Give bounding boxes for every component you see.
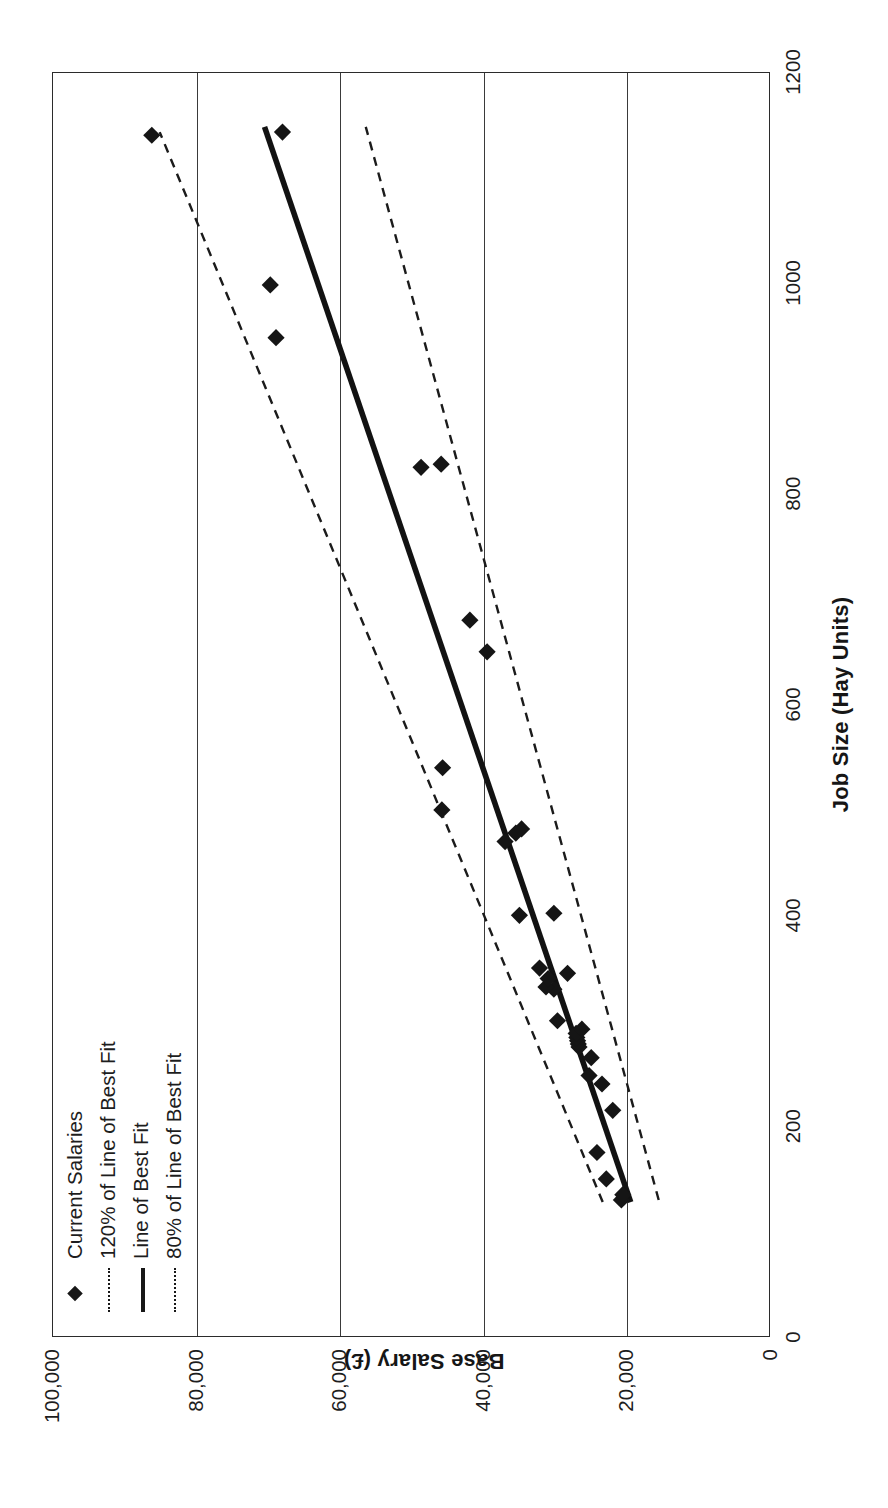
- data-point-marker: [559, 965, 576, 982]
- data-point-marker: [267, 329, 284, 346]
- legend-label: 120% of Line of Best Fit: [98, 1041, 119, 1259]
- dashed-line-icon: [166, 1268, 182, 1312]
- x-axis-tick-label: 800: [781, 477, 805, 511]
- data-point-marker: [433, 456, 450, 473]
- y-axis-tick-label: 100,000: [40, 1349, 64, 1489]
- x-axis-tick-label: 1200: [781, 49, 805, 95]
- x-axis-tick-label: 600: [781, 687, 805, 721]
- data-point-marker: [461, 612, 478, 629]
- diamond-marker-icon: [67, 1268, 83, 1312]
- data-point-marker: [604, 1102, 621, 1119]
- current-salaries-markers: [143, 123, 631, 1208]
- solid-line-icon: [133, 1268, 149, 1312]
- data-point-marker: [262, 276, 279, 293]
- y-axis-tick-label: 20,000: [614, 1349, 638, 1489]
- data-point-marker: [593, 1075, 610, 1092]
- y-axis-title: Base Salary (£): [264, 1348, 584, 1374]
- data-point-marker: [479, 643, 496, 660]
- legend-item-80-percent[interactable]: 80% of Line of Best Fit: [163, 1041, 185, 1312]
- y-axis-tick-label: 0: [758, 1349, 782, 1489]
- x-axis-tick-label: 0: [781, 1331, 805, 1342]
- chart-legend: Current Salaries 120% of Line of Best Fi…: [64, 1041, 185, 1312]
- legend-item-120-percent[interactable]: 120% of Line of Best Fit: [97, 1041, 119, 1312]
- y-axis-tick-label: 40,000: [471, 1349, 495, 1489]
- data-point-marker: [545, 905, 562, 922]
- y-axis-tick-label: 80,000: [184, 1349, 208, 1489]
- data-point-marker: [588, 1144, 605, 1161]
- x-axis-title: Job Size (Hay Units): [828, 72, 854, 1337]
- y-axis-tick-label: 60,000: [327, 1349, 351, 1489]
- x-axis-tick-label: 200: [781, 1109, 805, 1143]
- data-point-marker: [412, 459, 429, 476]
- legend-label: Line of Best Fit: [131, 1122, 152, 1259]
- dashed-line-icon: [100, 1268, 116, 1312]
- x-axis-tick-label: 1000: [781, 260, 805, 306]
- legend-label: Current Salaries: [65, 1111, 86, 1259]
- data-point-marker: [598, 1170, 615, 1187]
- data-point-marker: [143, 127, 160, 144]
- data-point-marker: [274, 123, 291, 140]
- legend-label: 80% of Line of Best Fit: [164, 1053, 185, 1259]
- rotated-page-stage: Base Salary (£) Job Size (Hay Units) 020…: [0, 0, 888, 1508]
- legend-item-current-salaries[interactable]: Current Salaries: [64, 1041, 86, 1312]
- legend-item-line-of-best-fit[interactable]: Line of Best Fit: [130, 1041, 152, 1312]
- data-point-marker: [433, 801, 450, 818]
- chart-canvas: Base Salary (£) Job Size (Hay Units) 020…: [0, 0, 888, 1508]
- data-point-marker: [511, 907, 528, 924]
- x-axis-tick-label: 400: [781, 898, 805, 932]
- data-point-marker: [434, 759, 451, 776]
- band-line: [366, 127, 659, 1200]
- band-line: [160, 132, 603, 1202]
- data-point-marker: [549, 1012, 566, 1029]
